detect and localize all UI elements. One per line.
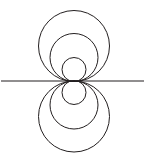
tangent-circles-diagram xyxy=(0,0,145,162)
figure-container xyxy=(0,0,145,162)
